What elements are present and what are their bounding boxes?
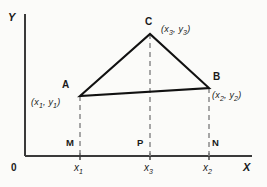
y-axis-label: Y [8,12,15,23]
tick-label-x2: x2 [203,163,212,175]
vertex-coord-a: (x1, y1) [31,98,60,109]
vertex-coord-c: (x3, y3) [161,25,190,36]
x-axis-label: X [243,162,250,173]
coord-b-x: x2 [215,90,224,100]
coord-a-x: x1 [34,97,43,107]
coord-c-y: y3 [178,24,187,34]
geometry-figure: Y X 0 A (x1, y1) B (x2, y2) C (x3, y3) M… [0,0,267,187]
vertex-coord-b: (x2, y2) [212,91,241,102]
tick-label-x3: x3 [144,163,153,175]
triangle-abc [80,34,209,96]
foot-label-m: M [66,138,74,148]
origin-label: 0 [11,163,17,173]
vertex-label-a: A [62,80,69,90]
foot-label-n: N [212,138,219,148]
tick-label-x1: x1 [74,163,83,175]
vertex-label-c: C [145,17,152,27]
coord-c-x: x3 [164,24,173,34]
foot-label-p: P [137,138,143,148]
vertex-label-b: B [213,72,220,82]
coord-b-y: y2 [229,90,238,100]
coord-a-y: y1 [48,97,57,107]
